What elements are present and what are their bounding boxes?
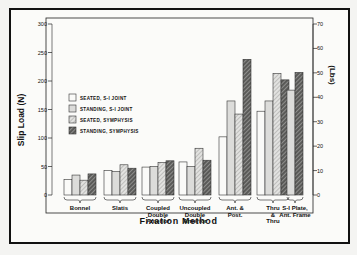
bar: [265, 101, 273, 195]
category-label: Bonnel: [70, 205, 91, 211]
legend-swatch: [69, 105, 76, 112]
legend-label: STANDING, S-I JOINT: [80, 107, 133, 112]
x-axis-title: Fixation Method: [0, 216, 357, 226]
bar: [187, 167, 195, 196]
category-label: Thru: [266, 205, 280, 211]
bar: [179, 162, 187, 195]
y-right-tick-label: 10: [317, 168, 323, 174]
category-label: Coupled: [146, 205, 170, 211]
y-right-tick-label: 30: [317, 119, 323, 125]
bar: [257, 111, 265, 195]
y-right-tick-label: 50: [317, 70, 323, 76]
bar: [219, 137, 227, 195]
category-label: Slatis: [112, 205, 129, 211]
y-tick-label: 300: [38, 21, 47, 27]
group-brace: [287, 197, 303, 203]
bar: [112, 172, 120, 195]
bar: [195, 148, 203, 195]
y-tick-label: 150: [38, 107, 47, 113]
bar: [88, 174, 96, 195]
legend-swatch: [69, 116, 76, 123]
legend-label: STANDING, SYMPHYSIS: [80, 129, 139, 134]
legend-swatch: [69, 127, 76, 134]
bar: [72, 175, 80, 195]
bar: [235, 114, 243, 195]
bar: [128, 168, 136, 195]
y-tick-label: 0: [44, 192, 47, 198]
category-label: Ant. &: [226, 205, 244, 211]
y-right-axis-title: (Lbs): [328, 65, 337, 85]
y-tick-label: 50: [41, 164, 47, 170]
bar: [80, 180, 88, 195]
y-right-tick-label: 70: [317, 21, 323, 27]
legend-label: SEATED, S-I JOINT: [80, 96, 127, 101]
bar: [120, 165, 128, 195]
bar: [295, 72, 303, 195]
group-brace: [104, 197, 136, 203]
bar: [142, 167, 150, 195]
bar: [287, 90, 295, 195]
category-label: S-I Plate,: [282, 205, 308, 211]
bar: [158, 163, 166, 195]
y-right-tick-label: 40: [317, 94, 323, 100]
y-right-tick-label: 20: [317, 143, 323, 149]
y-tick-label: 200: [38, 78, 47, 84]
group-brace: [179, 197, 211, 203]
bar: [166, 161, 174, 195]
y-tick-label: 250: [38, 50, 47, 56]
bar: [227, 101, 235, 195]
group-brace: [257, 197, 289, 203]
bar: [273, 74, 281, 195]
bar: [104, 170, 112, 195]
group-brace: [64, 197, 96, 203]
y-right-tick-label: 60: [317, 45, 323, 51]
bar: [64, 180, 72, 195]
group-brace: [219, 197, 251, 203]
bar: [203, 160, 211, 195]
legend-swatch: [69, 94, 76, 101]
category-label: Uncoupled: [180, 205, 211, 211]
y-axis-title: Slip Load (N): [16, 94, 26, 147]
bar: [243, 59, 251, 195]
legend-label: SEATED, SYMPHYSIS: [80, 118, 133, 123]
group-brace: [142, 197, 174, 203]
bar: [150, 167, 158, 196]
y-right-tick-label: 0: [317, 192, 320, 198]
y-tick-label: 100: [38, 135, 47, 141]
